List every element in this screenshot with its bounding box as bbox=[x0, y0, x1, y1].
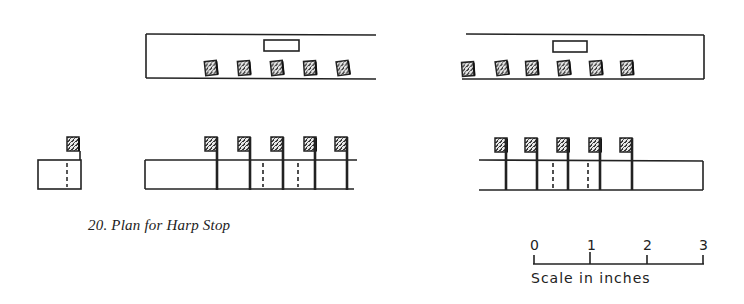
scale-tick-1: 1 bbox=[587, 237, 597, 253]
scale-bar bbox=[533, 252, 704, 264]
upper-right-plan bbox=[462, 34, 704, 79]
upper-left-blocks bbox=[204, 60, 350, 76]
harp-stop-diagram: 0 1 2 3 Scale in inches bbox=[0, 0, 744, 304]
figure-caption: 20. Plan for Harp Stop bbox=[88, 217, 230, 234]
lower-right-plan bbox=[479, 138, 703, 190]
scale-tick-0: 0 bbox=[530, 237, 540, 253]
lower-small-plan bbox=[38, 137, 81, 189]
scale-tick-2: 2 bbox=[643, 237, 653, 253]
upper-left-plan bbox=[146, 34, 376, 79]
scale-label: Scale in inches bbox=[531, 270, 651, 286]
lower-right-blocks bbox=[495, 138, 632, 190]
lower-left-blocks bbox=[205, 137, 347, 190]
scale-tick-3: 3 bbox=[699, 237, 709, 253]
upper-right-blocks bbox=[462, 60, 634, 76]
lower-left-plan bbox=[145, 137, 357, 190]
